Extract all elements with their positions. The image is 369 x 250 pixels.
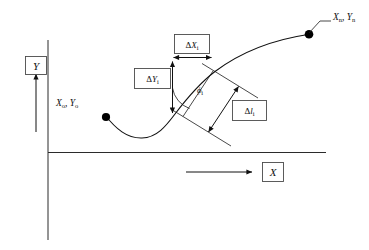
figure-canvas: Y X Xo, Yo Xn, Yn [0,0,369,250]
end-point-leader-line [309,21,331,33]
chord-extension-upper [202,64,258,99]
x-axis-label: X [269,166,278,178]
start-point-marker [102,113,110,121]
x-axis-label-group: X [186,163,284,182]
delta-x-label: ΔXi [185,40,198,51]
end-point-marker [305,30,314,39]
axes-group [48,40,326,240]
delta-y-dimension-group: ΔYi [135,62,173,114]
delta-l-dimension-group: Δli [209,87,267,133]
y-axis-label-group: Y [26,57,47,133]
start-point-label: Xo, Yo [55,98,78,109]
curve-diagram: Y X Xo, Yo Xn, Yn [0,0,369,250]
end-point-label-group: Xn, Yn [309,12,356,33]
delta-x-dimension-group: ΔXi [174,35,212,58]
angle-phi-group: ϕi [173,85,204,109]
chord-extension-lower [170,109,231,147]
end-point-label: Xn, Yn [332,12,356,23]
start-point-label-group: Xo, Yo [55,98,78,109]
